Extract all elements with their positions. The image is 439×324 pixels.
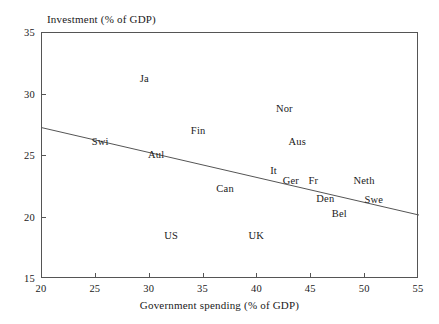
scatter-chart: Investment (% of GDP) JaSwiAulFinNorAusI… [0, 0, 439, 324]
trend-line [42, 33, 419, 279]
data-point-label: Aus [289, 137, 307, 148]
data-point-label: Bel [332, 209, 347, 220]
data-point-label: It [270, 166, 277, 177]
x-tick-label: 35 [197, 283, 208, 294]
data-point-label: US [164, 231, 178, 242]
plot-area: JaSwiAulFinNorAusItGerFrNethSweCanDenBel… [41, 32, 418, 278]
x-tick-label: 40 [251, 283, 262, 294]
y-tick-label: 25 [1, 150, 35, 161]
x-tick-label: 20 [36, 283, 47, 294]
x-tick-label: 50 [359, 283, 370, 294]
x-tick-label: 45 [305, 283, 316, 294]
y-tick-label: 35 [1, 27, 35, 38]
x-tick-label: 25 [89, 283, 100, 294]
x-tick-label: 55 [413, 283, 424, 294]
y-tick-label: 30 [1, 88, 35, 99]
y-axis-title: Investment (% of GDP) [47, 13, 156, 25]
data-point-label: Fin [191, 126, 206, 137]
data-point-label: Ja [140, 73, 149, 84]
data-point-label: Swe [364, 195, 383, 206]
data-point-label: Den [316, 194, 334, 205]
data-point-label: Neth [353, 175, 374, 186]
data-point-label: Ger [283, 175, 299, 186]
data-point-label: Aul [148, 150, 164, 161]
x-axis-title: Government spending (% of GDP) [0, 299, 439, 311]
y-tick-label: 15 [1, 273, 35, 284]
x-tick-label: 30 [143, 283, 154, 294]
data-point-label: Nor [276, 104, 293, 115]
data-point-label: UK [249, 231, 265, 242]
y-tick-label: 20 [1, 211, 35, 222]
data-point-label: Can [216, 184, 234, 195]
data-point-label: Swi [92, 137, 109, 148]
data-point-label: Fr [309, 175, 319, 186]
